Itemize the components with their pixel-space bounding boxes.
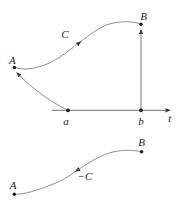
axis-point-b-marker: [139, 108, 143, 112]
label-A-bottom: A: [9, 179, 17, 191]
top-diagram: A B C a b t: [8, 10, 172, 128]
label-A-top: A: [8, 54, 16, 66]
label-t: t: [168, 112, 172, 124]
label-B-top: B: [140, 10, 147, 22]
label-b: b: [138, 115, 144, 127]
axis-point-a-marker: [66, 108, 70, 112]
bottom-diagram: A B −C: [9, 136, 146, 196]
label-C: C: [61, 28, 69, 40]
label-a: a: [63, 115, 69, 127]
point-B-bottom-marker: [140, 150, 143, 153]
curve-a-to-A: [19, 75, 68, 111]
curve-orientation-figure: A B C a b t A B −C: [0, 0, 187, 211]
label-B-bottom: B: [138, 136, 145, 148]
label-minus-C: −C: [78, 170, 93, 182]
vertical-line-arrowhead: [139, 28, 143, 34]
point-B-marker: [139, 23, 142, 26]
curve-C: [15, 22, 141, 69]
figure-canvas: A B C a b t A B −C: [0, 0, 187, 211]
point-A-bottom-marker: [13, 193, 16, 196]
